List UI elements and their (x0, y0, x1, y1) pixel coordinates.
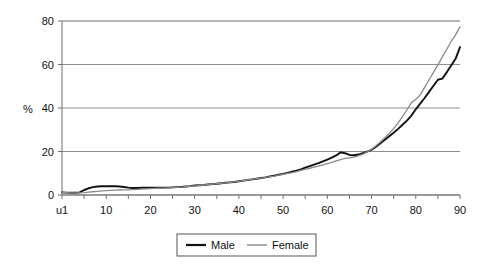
legend-label-female: Female (272, 239, 309, 251)
chart-canvas: 020406080 u1102030405060708090 % Male Fe… (0, 0, 491, 270)
y-tick-label-40: 40 (42, 102, 54, 114)
x-tick-label-u1: u1 (56, 204, 68, 216)
y-tick-label-0: 0 (48, 189, 54, 201)
data-series-layer (62, 27, 460, 193)
x-tick-label-50: 50 (277, 204, 289, 216)
y-gridlines (62, 21, 460, 195)
x-tick-label-30: 30 (189, 204, 201, 216)
x-tick-label-60: 60 (321, 204, 333, 216)
x-axis-tick-labels: u1102030405060708090 (56, 204, 466, 216)
legend: Male Female (177, 234, 316, 256)
x-tick-label-80: 80 (410, 204, 422, 216)
x-tick-label-10: 10 (100, 204, 112, 216)
x-tick-label-40: 40 (233, 204, 245, 216)
y-axis-title: % (23, 103, 33, 115)
series-line-female (62, 27, 460, 193)
y-tick-label-20: 20 (42, 146, 54, 158)
x-axis-ticks (62, 195, 460, 199)
x-tick-label-90: 90 (454, 204, 466, 216)
legend-label-male: Male (211, 239, 235, 251)
y-tick-label-80: 80 (42, 15, 54, 27)
x-tick-label-70: 70 (365, 204, 377, 216)
line-chart: 020406080 u1102030405060708090 % Male Fe… (0, 0, 491, 270)
y-axis-ticks (58, 21, 62, 195)
y-axis-tick-labels: 020406080 (42, 15, 54, 201)
y-tick-label-60: 60 (42, 59, 54, 71)
x-tick-label-20: 20 (144, 204, 156, 216)
